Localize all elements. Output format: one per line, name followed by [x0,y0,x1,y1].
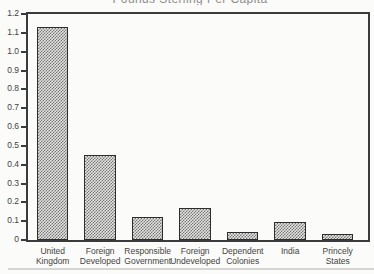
bar-foreign-undeveloped [179,208,211,240]
bar-foreign-developed [84,155,116,240]
y-tick-0.8 [21,88,26,90]
y-tick-1.2 [21,13,26,15]
y-tick-0.5 [21,145,26,147]
chart-title-clip: Pounds Sterling Per Capita [12,0,368,5]
bar-india [274,222,306,240]
bar-chart-figure: Pounds Sterling Per Capita 00.10.20.30.4… [0,0,374,274]
y-tick-0.7 [21,107,26,109]
x-label-line: States [307,257,369,267]
plot-area [26,12,370,242]
y-tick-label-0.7: 0.7 [0,102,19,112]
y-tick-label-0.8: 0.8 [0,83,19,93]
x-label-princely-states: PrincelyStates [307,247,369,266]
y-tick-0.2 [21,201,26,203]
bar-responsible-government [132,217,164,240]
x-label-line: Colonies [212,257,274,267]
y-tick-1.1 [21,32,26,34]
y-tick-0.1 [21,220,26,222]
y-tick-label-0.6: 0.6 [0,121,19,131]
y-tick-label-1.1: 1.1 [0,27,19,37]
y-tick-label-0.9: 0.9 [0,65,19,75]
chart-title: Pounds Sterling Per Capita [12,0,368,5]
y-tick-label-0: 0 [0,234,19,244]
y-tick-label-0.5: 0.5 [0,140,19,150]
y-tick-0.9 [21,70,26,72]
y-tick-label-0.4: 0.4 [0,159,19,169]
y-tick-label-0.2: 0.2 [0,196,19,206]
y-tick-0.4 [21,164,26,166]
y-tick-1.0 [21,51,26,53]
y-tick-0 [21,239,26,241]
bar-dependent-colonies [227,232,259,240]
bar-princely-states [322,234,354,240]
bar-united-kingdom [37,27,69,240]
bottom-rule [8,268,374,270]
y-tick-label-0.3: 0.3 [0,178,19,188]
y-tick-0.3 [21,183,26,185]
y-tick-label-1.0: 1.0 [0,46,19,56]
y-tick-label-0.1: 0.1 [0,215,19,225]
y-tick-0.6 [21,126,26,128]
y-tick-label-1.2: 1.2 [0,8,19,18]
